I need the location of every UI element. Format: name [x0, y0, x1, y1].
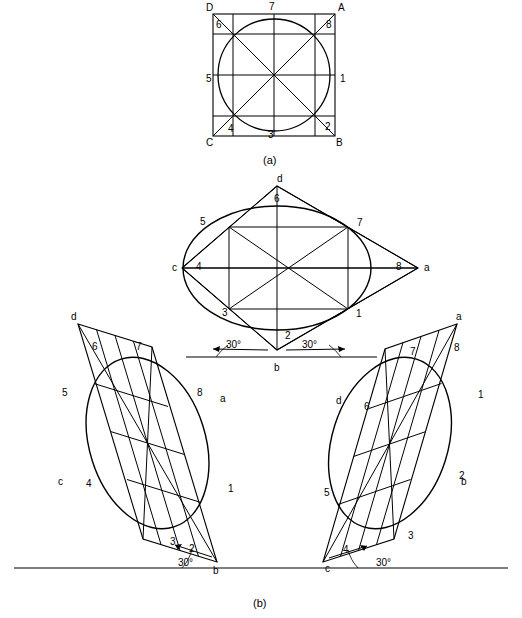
- label-top-point-2: 2: [285, 331, 291, 341]
- label-right-point-7: 7: [410, 347, 416, 357]
- label-part-a-corner-c: C: [206, 138, 213, 148]
- label-top-point-1: 1: [356, 309, 362, 319]
- label-part-a-point-1: 1: [340, 74, 346, 84]
- label-top-corner-c: c: [172, 263, 177, 273]
- label-top-point-5: 5: [200, 217, 206, 227]
- label-top-angle-right: 30°: [302, 340, 317, 350]
- label-top-point-7: 7: [357, 218, 363, 228]
- label-top-point-4: 4: [196, 262, 202, 272]
- caption-b: (b): [253, 598, 266, 609]
- label-top-angle-left: 30°: [226, 340, 241, 350]
- label-left-point-2: 2: [189, 544, 195, 554]
- label-right-point-5: 5: [324, 488, 330, 498]
- label-left-point-6: 6: [92, 342, 98, 352]
- label-left-point-5: 5: [62, 388, 68, 398]
- label-top-corner-d: d: [277, 174, 283, 184]
- part-b-right-rhombus: [308, 324, 472, 568]
- label-right-point-3: 3: [408, 531, 414, 541]
- part-b-top-rhombus: [182, 186, 418, 357]
- label-left-corner-a: a: [220, 394, 226, 404]
- label-part-a-point-5: 5: [206, 74, 212, 84]
- label-right-point-4: 4: [343, 545, 349, 555]
- label-left-point-3: 3: [170, 537, 176, 547]
- label-right-point-1: 1: [478, 390, 484, 400]
- label-top-point-8: 8: [396, 262, 402, 272]
- label-left-corner-d: d: [71, 312, 77, 322]
- label-left-point-4: 4: [86, 479, 92, 489]
- label-top-point-6: 6: [274, 194, 280, 204]
- label-part-a-corner-a: A: [338, 3, 345, 13]
- label-left-corner-b: b: [213, 566, 219, 576]
- label-part-a-point-8: 8: [326, 20, 332, 30]
- label-part-a-corner-b: B: [336, 138, 343, 148]
- label-part-a-point-2: 2: [325, 122, 331, 132]
- label-right-corner-d: d: [336, 396, 342, 406]
- figure-canvas: D A C B 7 6 8 5 1 4 3 2 (a) d c a b 6 5 …: [0, 0, 522, 618]
- label-left-angle: 30°: [178, 558, 193, 568]
- label-part-a-point-7: 7: [269, 2, 275, 12]
- label-right-point-6: 6: [364, 402, 370, 412]
- label-part-a-point-6: 6: [216, 20, 222, 30]
- part-a-square: [213, 14, 335, 136]
- caption-a: (a): [263, 155, 276, 166]
- label-left-corner-c: c: [58, 477, 63, 487]
- label-left-point-1: 1: [228, 484, 234, 494]
- label-left-point-7: 7: [136, 342, 142, 352]
- label-part-a-corner-d: D: [206, 3, 213, 13]
- label-right-corner-a: a: [456, 312, 462, 322]
- label-top-point-3: 3: [222, 308, 228, 318]
- label-top-corner-a: a: [424, 263, 430, 273]
- label-right-corner-c: c: [325, 564, 330, 574]
- label-part-a-point-3: 3: [268, 130, 274, 140]
- part-b-left-rhombus: [14, 324, 508, 568]
- label-top-corner-b: b: [274, 363, 280, 373]
- label-part-a-point-4: 4: [228, 124, 234, 134]
- label-right-point-2: 2: [459, 471, 465, 481]
- label-left-point-8: 8: [197, 388, 203, 398]
- label-right-point-8: 8: [454, 343, 460, 353]
- label-right-angle: 30°: [376, 558, 391, 568]
- diagram-svg: [0, 0, 522, 618]
